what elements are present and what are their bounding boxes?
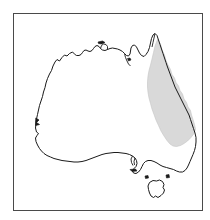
flinders-island: [166, 175, 170, 179]
figure-root: Australia shaded distribution range Narr…: [0, 0, 210, 220]
king-island: [145, 176, 149, 179]
melville-island: [98, 41, 105, 44]
figure-region-label: Australia: [0, 0, 1, 1]
distribution-extent-description: Narrow band along the eastern seaboard, …: [0, 0, 1, 1]
tasmania-outline: [148, 180, 165, 198]
australia-distribution-map: [14, 14, 204, 212]
distribution-overlay-label: shaded distribution range: [0, 0, 1, 1]
australia-mainland-outline: [36, 34, 197, 174]
map-frame: [13, 13, 203, 211]
kangaroo-island: [130, 169, 137, 172]
